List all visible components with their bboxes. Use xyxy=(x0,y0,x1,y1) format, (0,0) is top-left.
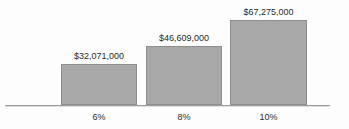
bar-value-label: $32,071,000 xyxy=(61,51,137,62)
bar-value-label: $67,275,000 xyxy=(230,7,307,18)
bar-value-label: $46,609,000 xyxy=(146,33,222,44)
x-axis-tick-label: 8% xyxy=(146,112,222,123)
plot-area: $32,071,000 $46,609,000 $67,275,000 6% 8… xyxy=(0,0,349,129)
x-axis-tick-label: 10% xyxy=(230,112,307,123)
x-axis-line-shadow xyxy=(5,106,330,107)
bar xyxy=(146,46,222,105)
bar-chart-figure: $32,071,000 $46,609,000 $67,275,000 6% 8… xyxy=(0,0,349,129)
bar xyxy=(230,20,307,105)
bar xyxy=(61,64,137,105)
x-axis-tick-label: 6% xyxy=(61,112,137,123)
